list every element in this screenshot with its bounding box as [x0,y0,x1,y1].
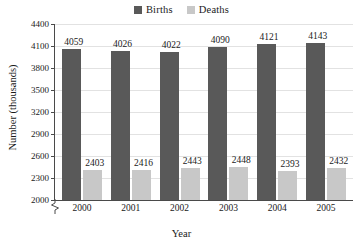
legend-swatch-deaths [187,6,195,14]
bar-group: 40902448 [208,24,248,200]
bar-births-2001: 4026 [111,24,130,200]
y-axis-title: Number (thousands) [7,33,18,183]
x-axis-tick-label: 2000 [62,203,102,213]
y-axis-tick-label: 2300 [31,174,49,183]
x-axis-title: Year [0,228,363,239]
bar-chart: Births Deaths Number (thousands) 4400410… [0,0,363,249]
legend-swatch-births [134,6,142,14]
x-axis-tick-label: 2005 [306,203,346,213]
x-axis-tick-label: 2002 [160,203,200,213]
x-axis-line [54,200,353,201]
bar-groups: 4059240340262416402224434090244841212393… [55,24,353,200]
bar-group: 41212393 [257,24,297,200]
bar-value-label: 2443 [183,157,202,166]
bar-group: 40592403 [62,24,102,200]
bar-value-label: 2403 [85,159,104,168]
x-axis-labels: 200020012002200320042005 [55,203,353,213]
y-axis-tick-label: 3200 [31,108,49,117]
chart-legend: Births Deaths [0,5,363,15]
x-axis-tick-label: 2001 [111,203,151,213]
bar-rect [306,43,325,200]
bar-births-2003: 4090 [208,24,227,200]
y-axis-tick-label: 3500 [31,86,49,95]
bar-births-2004: 4121 [257,24,276,200]
bar-rect [208,47,227,200]
y-axis-tick-label: 4400 [31,20,49,29]
legend-label-deaths: Deaths [199,5,229,15]
x-axis-tick-label: 2004 [257,203,297,213]
bar-value-label: 4059 [64,38,83,47]
bar-group: 40222443 [160,24,200,200]
plot-area: 440041003800350032002900260023002000 405… [55,24,353,200]
legend-label-births: Births [146,5,173,15]
bar-deaths-2003: 2448 [229,24,248,200]
bar-deaths-2002: 2443 [181,24,200,200]
bar-value-label: 4121 [259,33,278,42]
bar-rect [62,49,81,200]
bar-rect [132,170,151,201]
bar-deaths-2005: 2432 [327,24,346,200]
bar-value-label: 2393 [280,160,299,169]
bar-value-label: 2432 [329,157,348,166]
bar-rect [83,170,102,200]
bar-rect [327,168,346,200]
bar-rect [278,171,297,200]
legend-item-deaths: Deaths [187,5,229,15]
bar-births-2005: 4143 [306,24,325,200]
bar-deaths-2001: 2416 [132,24,151,200]
y-axis-tick-label: 2600 [31,152,49,161]
bar-rect [229,167,248,200]
bar-group: 41432432 [306,24,346,200]
bar-rect [160,52,179,200]
bar-rect [257,44,276,200]
bar-value-label: 4143 [308,32,327,41]
bar-births-2002: 4022 [160,24,179,200]
bar-value-label: 2416 [134,159,153,168]
bar-deaths-2004: 2393 [278,24,297,200]
y-axis-tick-label: 4100 [31,42,49,51]
y-axis-tick-label: 2900 [31,130,49,139]
bar-value-label: 4022 [162,41,181,50]
bar-rect [181,168,200,200]
bar-value-label: 2448 [232,156,251,165]
bar-rect [111,51,130,200]
bar-group: 40262416 [111,24,151,200]
legend-item-births: Births [134,5,173,15]
bar-value-label: 4090 [211,36,230,45]
bar-value-label: 4026 [113,40,132,49]
y-axis-tick-label: 2000 [31,196,49,205]
x-axis-tick-label: 2003 [208,203,248,213]
y-axis-tick-label: 3800 [31,64,49,73]
bar-births-2000: 4059 [62,24,81,200]
bar-deaths-2000: 2403 [83,24,102,200]
